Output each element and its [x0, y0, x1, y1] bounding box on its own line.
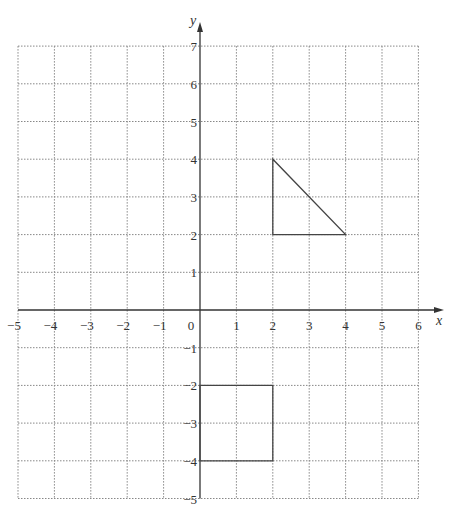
y-tick-label: −3 [183, 416, 197, 431]
y-tick-label: 2 [191, 228, 198, 243]
x-tick-label: −5 [7, 318, 21, 333]
y-tick-label: 5 [191, 115, 198, 130]
y-axis-label: y [188, 13, 197, 28]
coordinate-grid: xy −5−4−3−2−112345607654321−1−2−3−4−5 [0, 0, 454, 514]
gridlines [18, 46, 418, 498]
x-tick-label: −2 [116, 318, 130, 333]
y-tick-label: −1 [183, 341, 197, 356]
origin-label: 0 [188, 318, 195, 333]
y-tick-label: 7 [191, 39, 198, 54]
x-tick-label: −4 [43, 318, 57, 333]
x-tick-label: 4 [342, 318, 349, 333]
x-tick-label: 6 [415, 318, 422, 333]
x-tick-label: 5 [379, 318, 386, 333]
y-axis-arrow-icon [197, 22, 203, 32]
x-axis-label: x [435, 313, 443, 328]
y-tick-label: −4 [183, 454, 197, 469]
y-tick-label: 1 [191, 265, 198, 280]
y-tick-label: 6 [191, 77, 198, 92]
x-tick-label: 3 [306, 318, 313, 333]
x-tick-label: −1 [153, 318, 167, 333]
axes: xy [18, 13, 444, 499]
y-tick-label: −2 [183, 378, 197, 393]
x-tick-label: 2 [270, 318, 277, 333]
x-tick-label: −3 [80, 318, 94, 333]
x-tick-label: 1 [233, 318, 240, 333]
y-tick-label: −5 [183, 492, 197, 507]
y-tick-label: 3 [191, 190, 198, 205]
y-tick-label: 4 [191, 152, 198, 167]
